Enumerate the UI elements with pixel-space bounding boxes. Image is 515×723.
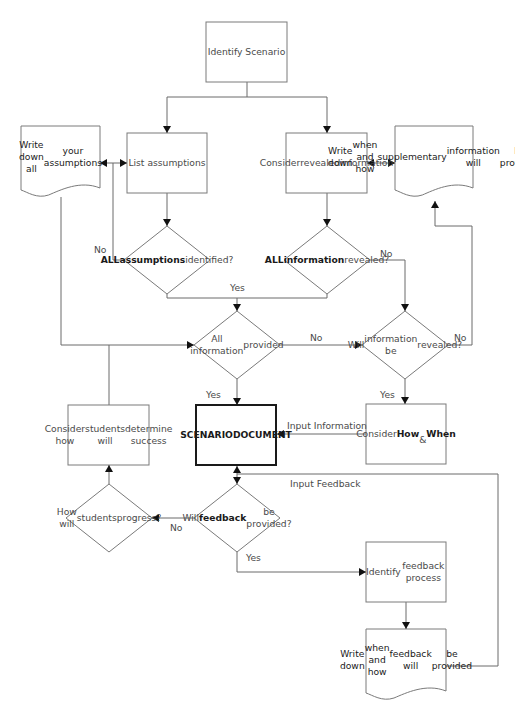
node-will-information-be-revealed: Willinformation berevealed? [362,311,448,379]
node-all-assumptions-identified: ALLassumptionsidentified? [124,226,210,294]
arrowhead-icon [120,159,127,167]
arrowhead-icon [233,477,241,484]
node-identify-feedback-process: Identifyfeedback process [366,542,446,602]
edge-label: Yes [246,552,261,563]
arrowhead-icon [431,201,439,208]
node-consider-how-when: Consider How& When [366,404,446,464]
node-scenario-document: SCENARIODOCUMENT [196,405,276,465]
arrowhead-icon [233,398,241,405]
edge-label: No [454,332,467,343]
arrowhead-icon [105,465,113,472]
node-all-information-revealed: ALLinformationrevealed? [284,226,370,294]
edge-all-assumptions-identified-to-all-information-provided [167,294,327,298]
arrowhead-icon [323,126,331,133]
arrowhead-icon [233,466,241,473]
node-write-down-feedback: Write downwhen and howfeedback willbe pr… [366,629,446,691]
node-write-down-assumptions: Write down allyour assumptions [21,126,100,188]
edge-label: Yes [206,389,221,400]
node-all-information-provided: All informationprovided [194,311,280,379]
node-how-will-students-progress: How willstudentsprogress? [66,484,152,552]
edge-label: No [380,248,393,259]
edge-label: No [170,522,183,533]
arrowhead-icon [323,219,331,226]
edge-all-information-revealed-to-will-information-be-revealed [370,260,405,311]
arrowhead-icon [233,304,241,311]
arrowhead-icon [163,219,171,226]
arrowhead-icon [402,622,410,629]
edge-label: Yes [230,282,245,293]
edge-label: No [94,244,107,255]
edge-identify-scenario-to-consider-revealed-information [247,97,327,133]
node-consider-how-students-determine-success: Consider howstudents willdetermine succe… [68,405,149,465]
node-write-down-supplementary: Write downwhen and howsupplementaryinfor… [395,126,473,188]
edge-all-assumptions-identified-to-list-assumptions [113,163,124,260]
arrowhead-icon [163,126,171,133]
edge-label: Yes [380,389,395,400]
node-identify-scenario: Identify Scenario [206,22,287,82]
arrowhead-icon [401,397,409,404]
edge-label: No [310,332,323,343]
node-will-feedback-be-provided: Willfeedback beprovided? [194,484,280,552]
edge-label: Input Information [287,420,367,431]
arrowhead-icon [359,568,366,576]
edge-label: Input Feedback [290,478,360,489]
edge-identify-scenario-to-list-assumptions [167,82,247,133]
arrowhead-icon [401,304,409,311]
node-list-assumptions: List assumptions [127,133,207,193]
